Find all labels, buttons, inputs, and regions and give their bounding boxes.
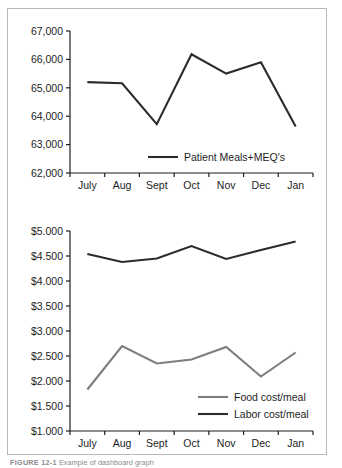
y-axis-tick-label: 67,000 [31,25,63,37]
y-axis-tick-label: 64,000 [31,110,63,122]
legend-label-0: Patient Meals+MEQ's [184,151,285,163]
figure-caption: FIGURE 12-1 Example of dashboard graph [10,458,342,467]
x-axis-tick-label: Sept [146,437,168,449]
figure-frame: 62,00063,00064,00065,00066,00067,000July… [7,8,327,455]
x-axis-tick-label: Aug [113,437,132,449]
y-axis-tick-label: 66,000 [31,53,63,65]
y-axis-tick-label: 65,000 [31,82,63,94]
series-line-0 [87,346,295,390]
figure-caption-text: Example of dashboard graph [59,458,154,467]
x-axis-tick-label: July [78,179,97,191]
x-axis-tick-label: Dec [252,179,271,191]
x-axis-tick-label: Jan [287,437,304,449]
x-axis-tick-label: Sept [146,179,168,191]
x-axis-tick-label: July [78,437,97,449]
series-line-1 [87,242,295,263]
legend-label-1: Labor cost/meal [234,408,309,420]
chart-bottom-cost-per-meal: $1.000$1.500$2.000$2.500$3.000$3.500$4.0… [8,209,326,454]
y-axis-tick-label: $1.500 [31,400,63,412]
x-axis-tick-label: Oct [183,179,199,191]
figure-caption-number: FIGURE 12-1 [10,458,57,467]
y-axis-tick-label: 63,000 [31,138,63,150]
x-axis-tick-label: Oct [183,437,199,449]
x-axis-tick-label: Jan [287,179,304,191]
x-axis-tick-label: Nov [217,437,236,449]
x-axis-tick-label: Aug [113,179,132,191]
patient-meals-chart-svg: 62,00063,00064,00065,00066,00067,000July… [8,9,326,209]
y-axis-tick-label: $3.500 [31,300,63,312]
cost-per-meal-chart-svg: $1.000$1.500$2.000$2.500$3.000$3.500$4.0… [8,209,326,454]
y-axis-tick-label: 62,000 [31,167,63,179]
y-axis-tick-label: $5.000 [31,225,63,237]
y-axis-tick-label: $4.500 [31,250,63,262]
y-axis-tick-label: $2.500 [31,350,63,362]
series-line-0 [87,54,295,126]
y-axis-tick-label: $1.000 [31,425,63,437]
y-axis-tick-label: $2.000 [31,375,63,387]
y-axis-tick-label: $4.000 [31,275,63,287]
legend-label-0: Food cost/meal [234,391,306,403]
x-axis-tick-label: Dec [252,437,271,449]
chart-top-patient-meals: 62,00063,00064,00065,00066,00067,000July… [8,9,326,209]
x-axis-tick-label: Nov [217,179,236,191]
y-axis-tick-label: $3.000 [31,325,63,337]
